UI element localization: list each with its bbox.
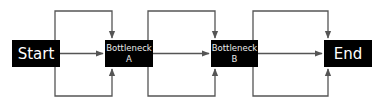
- node-end-label: End: [334, 45, 363, 63]
- node-bottleneck-b-sublabel: B: [232, 54, 238, 65]
- edge-a-b-bottom: [148, 67, 215, 96]
- node-bottleneck-b: Bottleneck B: [211, 40, 258, 67]
- edge-a-b-top: [148, 11, 215, 40]
- edge-b-end-bottom: [253, 67, 328, 96]
- edge-b-end-top: [253, 11, 328, 40]
- node-bottleneck-b-label: Bottleneck: [212, 43, 258, 54]
- node-bottleneck-a-sublabel: A: [126, 54, 132, 65]
- edge-start-a-bottom: [55, 67, 112, 96]
- node-start: Start: [12, 40, 60, 67]
- node-bottleneck-a: Bottleneck A: [105, 40, 153, 67]
- node-start-label: Start: [18, 45, 55, 63]
- node-bottleneck-a-label: Bottleneck: [106, 43, 152, 54]
- node-end: End: [324, 40, 372, 67]
- edge-start-a-top: [55, 11, 112, 40]
